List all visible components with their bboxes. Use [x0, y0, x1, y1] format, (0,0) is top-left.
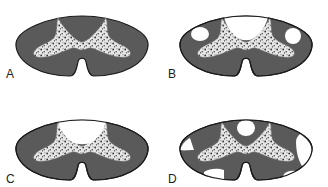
- panel-c: [16, 120, 148, 181]
- lesion-dorsal-central: [237, 120, 255, 136]
- panel-label-a: A: [6, 67, 14, 81]
- lesion-right-lateral: [285, 28, 301, 44]
- panel-label-b: B: [168, 67, 176, 81]
- panel-b: [180, 16, 312, 76]
- panel-label-d: D: [168, 172, 177, 186]
- panel-label-c: C: [6, 172, 15, 186]
- panel-d: [180, 120, 312, 180]
- spinal-cord-diagram: A B C D: [0, 0, 328, 187]
- lesion-left-lateral: [191, 27, 209, 41]
- panel-a: [16, 16, 148, 76]
